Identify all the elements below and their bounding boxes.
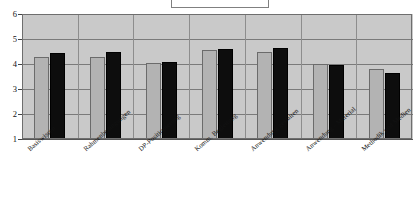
y-tick-label: 2	[4, 110, 17, 118]
y-tick-label: 6	[4, 10, 17, 18]
category-separator	[356, 14, 357, 139]
bar	[202, 50, 217, 139]
category-separator	[301, 14, 302, 139]
x-axis-category-labels: BasiswissenRahmenbedingungenDP-Positioni…	[0, 139, 416, 224]
category-separator	[245, 14, 246, 139]
bar	[90, 57, 105, 140]
bars-layer	[22, 14, 412, 139]
category-separator	[189, 14, 190, 139]
bar	[34, 57, 49, 140]
bar-chart: 123456 BasiswissenRahmenbedingungenDP-Po…	[0, 0, 416, 224]
category-separator	[133, 14, 134, 139]
bar	[257, 52, 272, 139]
y-tick-label: 3	[4, 85, 17, 93]
category-separator	[78, 14, 79, 139]
y-tick-label: 4	[4, 60, 17, 68]
y-tick-label: 5	[4, 35, 17, 43]
